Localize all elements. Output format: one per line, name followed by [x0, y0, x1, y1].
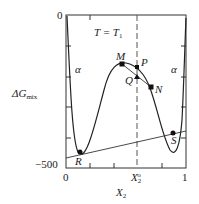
x-axis-label: X2 — [116, 187, 126, 200]
y-axis-label: ΔGmix — [12, 88, 37, 101]
phase-label-alpha-left: α — [75, 64, 81, 75]
x-tick-0-label: 0 — [63, 172, 69, 183]
point-r-marker — [78, 150, 83, 155]
x-tick-mid-label: X2o — [131, 172, 141, 185]
point-m-label: M — [116, 51, 125, 62]
condition-label-sub: 1 — [119, 32, 123, 40]
x-tick-mid-sup: o — [137, 171, 141, 179]
x-axis-label-sub: 2 — [123, 192, 127, 200]
point-p-marker — [135, 65, 139, 69]
condition-label: T = T1 — [94, 27, 122, 40]
point-n-marker — [149, 85, 154, 90]
x-axis-label-main: X — [116, 186, 123, 198]
x-tick-1-label: 1 — [182, 172, 188, 183]
point-m-marker — [120, 62, 125, 67]
point-s-label: S — [171, 135, 177, 146]
condition-label-main: T = T — [94, 26, 119, 38]
point-n-label: N — [155, 84, 162, 95]
y-tick-bottom-label: −500 — [35, 159, 58, 170]
y-tick-top-label: 0 — [57, 10, 63, 21]
phase-label-alpha-right: α — [171, 64, 177, 75]
point-r-label: R — [75, 156, 82, 167]
x-ticks-bottom — [90, 163, 162, 168]
y-axis-label-sub: mix — [26, 93, 37, 101]
point-q-label: Q — [125, 75, 133, 86]
point-p-label: P — [141, 57, 148, 68]
y-axis-label-main: ΔG — [12, 87, 26, 99]
